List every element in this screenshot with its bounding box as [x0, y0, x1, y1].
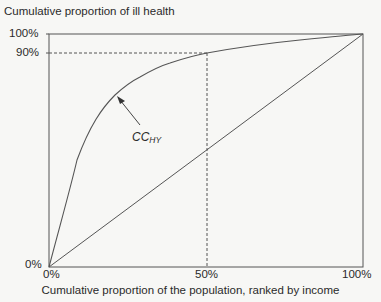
equality-line: [49, 34, 363, 267]
arrow-head-icon: [117, 96, 125, 104]
curve-label-sub: HY: [149, 135, 161, 145]
curve-label-main: CC: [132, 130, 149, 144]
curve-label: CCHY: [132, 130, 161, 145]
x-axis-title: Cumulative proportion of the population,…: [0, 284, 381, 296]
plot-area: [0, 0, 381, 302]
arrow-line: [120, 100, 140, 125]
